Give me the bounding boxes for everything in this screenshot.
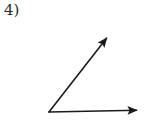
angle-diagram — [0, 0, 152, 123]
diagonal-ray — [49, 38, 107, 112]
angle-problem-figure: 4) — [0, 0, 152, 123]
angle-rays — [48, 38, 137, 113]
angle-vertex — [48, 111, 50, 113]
horizontal-ray — [49, 110, 137, 112]
